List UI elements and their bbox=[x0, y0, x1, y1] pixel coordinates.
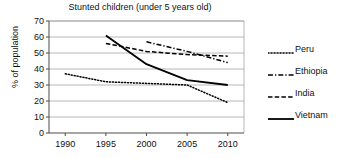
legend-item-peru[interactable]: Peru bbox=[268, 38, 351, 60]
svg-text:1995: 1995 bbox=[96, 139, 116, 149]
svg-text:70: 70 bbox=[34, 16, 44, 26]
svg-text:30: 30 bbox=[34, 80, 44, 90]
dashed-line-sample bbox=[268, 88, 294, 98]
gridlines bbox=[49, 21, 244, 117]
svg-text:2000: 2000 bbox=[136, 139, 156, 149]
dash-dot-line-sample bbox=[268, 66, 294, 76]
solid-line-sample bbox=[268, 110, 294, 120]
dotted-line-sample bbox=[268, 44, 294, 54]
svg-text:20: 20 bbox=[34, 96, 44, 106]
series-line-india bbox=[106, 43, 228, 56]
legend-item-india[interactable]: India bbox=[268, 82, 351, 104]
svg-text:2005: 2005 bbox=[177, 139, 197, 149]
legend-label-peru: Peru bbox=[294, 44, 314, 54]
svg-text:1990: 1990 bbox=[55, 139, 75, 149]
series-line-peru bbox=[65, 74, 228, 103]
svg-text:60: 60 bbox=[34, 32, 44, 42]
y-axis-ticks: 010203040506070 bbox=[34, 16, 44, 138]
axis-lines bbox=[46, 21, 244, 136]
svg-text:2010: 2010 bbox=[218, 139, 238, 149]
x-axis-ticks: 19901995200020052010 bbox=[55, 139, 238, 149]
svg-text:0: 0 bbox=[39, 128, 44, 138]
series-line-vietnam bbox=[106, 35, 228, 85]
legend-label-ethiopia: Ethiopia bbox=[294, 66, 328, 76]
legend-label-vietnam: Vietnam bbox=[294, 110, 328, 120]
chart-legend: PeruEthiopiaIndiaVietnam bbox=[268, 38, 351, 126]
legend-item-ethiopia[interactable]: Ethiopia bbox=[268, 60, 351, 82]
legend-item-vietnam[interactable]: Vietnam bbox=[268, 104, 351, 126]
svg-text:40: 40 bbox=[34, 64, 44, 74]
legend-label-india: India bbox=[294, 88, 315, 98]
svg-text:10: 10 bbox=[34, 112, 44, 122]
svg-text:50: 50 bbox=[34, 48, 44, 58]
chart-container: Stunted children (under 5 years old) % o… bbox=[0, 0, 351, 158]
